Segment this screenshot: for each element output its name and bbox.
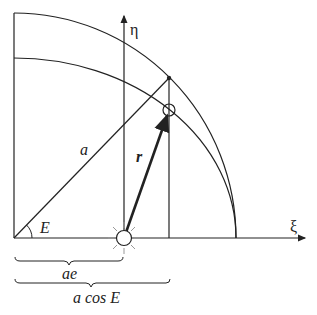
orbit-diagram: a r E ae a cos E η ξ: [0, 0, 317, 315]
brace-ae: [15, 257, 123, 265]
ellipse-orbit: [14, 58, 236, 238]
label-acosE: a cos E: [73, 289, 120, 306]
radius-vector: [124, 116, 167, 238]
label-a: a: [80, 141, 88, 158]
angle-arc: [27, 225, 33, 238]
label-xi: ξ: [290, 218, 297, 235]
label-ae: ae: [62, 265, 77, 282]
sun-icon: [108, 222, 140, 254]
circle-point: [167, 76, 171, 80]
label-E: E: [39, 219, 50, 236]
brace-acosE: [15, 279, 170, 287]
label-eta: η: [130, 21, 138, 39]
semi-major-line: [14, 78, 169, 238]
label-r: r: [136, 148, 143, 165]
